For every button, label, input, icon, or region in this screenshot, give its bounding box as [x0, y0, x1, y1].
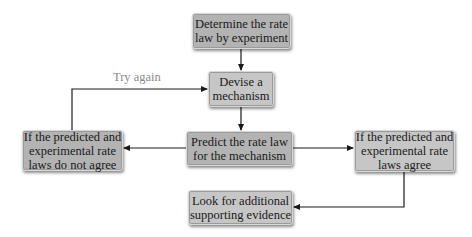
node-text: Devise a — [219, 75, 262, 89]
try-again-label: Try again — [113, 70, 161, 85]
node-text: Determine the rate — [195, 17, 288, 31]
node-predict-rate-law: Predict the rate law for the mechanism — [186, 131, 293, 166]
node-text: Predict the rate law — [191, 135, 288, 149]
node-laws-agree: If the predicted and experimental rate l… — [354, 130, 455, 172]
node-laws-do-not-agree: If the predicted and experimental rate l… — [22, 130, 123, 171]
node-text: Look for additional — [192, 194, 289, 208]
node-devise-mechanism: Devise a mechanism — [208, 71, 274, 107]
node-text: experimental rate — [361, 144, 448, 158]
node-text: If the predicted and — [356, 130, 454, 144]
arrow-try-again — [72, 89, 207, 130]
node-text: If the predicted and — [24, 130, 122, 144]
node-text: supporting evidence — [190, 208, 291, 222]
node-text: laws do not agree — [29, 158, 117, 172]
node-text: experimental rate — [29, 144, 116, 158]
node-look-for-evidence: Look for additional supporting evidence — [188, 190, 293, 225]
node-text: law by experiment — [195, 31, 288, 45]
node-text: mechanism — [213, 89, 270, 103]
node-determine-rate-law: Determine the rate law by experiment — [192, 13, 291, 49]
node-text: laws agree — [378, 158, 431, 172]
node-text: for the mechanism — [193, 149, 286, 163]
arrow-agree-to-evidence — [294, 171, 404, 207]
